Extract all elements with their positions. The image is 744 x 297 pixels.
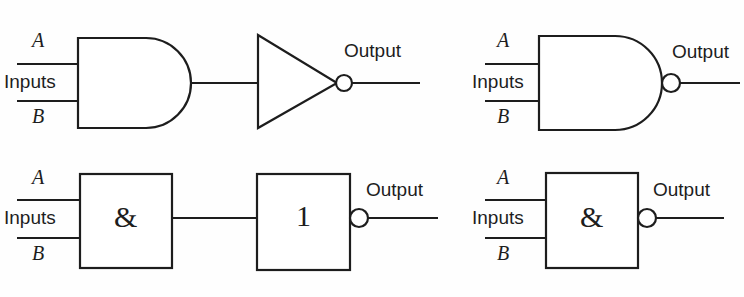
nand-gate-rectangular-output-label: Output	[653, 180, 710, 199]
not-gate-triangle-body	[258, 35, 337, 128]
nand-gate-distinctive-output-label: Output	[672, 42, 729, 61]
nand-gate-rectangular-input-b-label: B	[497, 243, 509, 263]
nand-gate-distinctive-inputs-label: Inputs	[472, 72, 524, 91]
nand-gate-distinctive-input-a-label: A	[497, 30, 509, 50]
nand-gate-distinctive-input-b-label: B	[497, 106, 509, 126]
not-gate-rectangular-output-label: Output	[366, 180, 423, 199]
nand-gate-rectangular-inputs-label: Inputs	[472, 208, 524, 227]
logic-gate-diagram: A Inputs B Output A Inputs B Output A In…	[0, 0, 744, 297]
not-gate-inversion-bubble-icon	[336, 75, 352, 91]
nand-gate-distinctive-body	[539, 36, 662, 130]
nand-gate-inversion-bubble-icon	[662, 74, 680, 92]
and-gate-rectangular-inputs-label: Inputs	[4, 208, 56, 227]
and-gate-distinctive-body	[78, 38, 191, 128]
and-gate-distinctive-input-a-label: A	[32, 30, 44, 50]
and-gate-distinctive-input-b-label: B	[32, 106, 44, 126]
nand-gate-rectangular-input-a-label: A	[497, 167, 509, 187]
and-gate-rectangular-symbol: &	[114, 202, 137, 232]
and-gate-rectangular-input-a-label: A	[32, 167, 44, 187]
nand-gate-rectangular-symbol: &	[580, 202, 603, 232]
and-gate-rectangular-input-b-label: B	[32, 243, 44, 263]
not-gate-rectangular-symbol: 1	[296, 201, 311, 231]
and-gate-distinctive-inputs-label: Inputs	[4, 72, 56, 91]
nand-gate-rectangular-inversion-bubble-icon	[638, 209, 656, 227]
not-gate-distinctive-output-label: Output	[344, 41, 401, 60]
not-gate-rectangular-inversion-bubble-icon	[350, 209, 368, 227]
